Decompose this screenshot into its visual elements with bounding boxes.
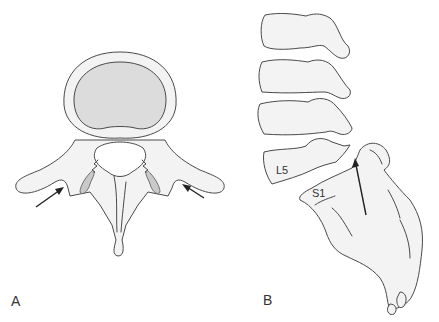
vertebral-body-inner — [74, 62, 166, 129]
panel-label-a: A — [11, 293, 20, 309]
label-s1: S1 — [312, 187, 325, 199]
axial-vertebra-illustration — [0, 0, 240, 322]
label-l5: L5 — [276, 164, 288, 176]
vertebra-l4 — [258, 99, 352, 135]
coccyx-segment-2 — [387, 304, 396, 315]
vertebra-l3 — [259, 60, 350, 99]
panel-b-lateral-spine: L5 S1 B — [240, 0, 439, 322]
sacrum — [300, 143, 423, 310]
vertebra-l2 — [261, 13, 349, 58]
panel-label-b: B — [263, 292, 272, 308]
panel-a-axial-vertebra: A — [0, 0, 240, 322]
lateral-spine-illustration — [240, 0, 439, 322]
